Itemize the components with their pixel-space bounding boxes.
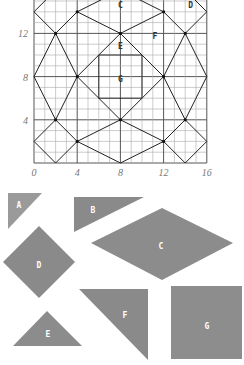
y-tick-label: 12 bbox=[18, 28, 28, 39]
piece-shape bbox=[8, 193, 42, 229]
x-tick-label: 4 bbox=[75, 167, 80, 178]
piece-a: A bbox=[8, 193, 42, 229]
piece-d: D bbox=[3, 226, 75, 298]
vertex-dot bbox=[184, 32, 187, 35]
piece-f: F bbox=[79, 289, 148, 360]
piece-label: A bbox=[17, 201, 22, 210]
vertex-dot bbox=[76, 10, 79, 13]
x-tick-label: 16 bbox=[202, 167, 212, 178]
vertex-dot bbox=[76, 75, 79, 78]
region-label-d: D bbox=[188, 1, 193, 10]
tangram-diagram: CDFEG 04812164812 ABCDEFG bbox=[0, 0, 244, 365]
piece-label: G bbox=[205, 322, 210, 331]
piece-e: E bbox=[13, 311, 82, 346]
vertex-dot bbox=[162, 140, 165, 143]
region-label-g: G bbox=[118, 75, 123, 84]
x-tick-label: 12 bbox=[159, 167, 169, 178]
piece-label: C bbox=[159, 242, 164, 251]
piece-label: B bbox=[91, 206, 96, 215]
piece-label: F bbox=[123, 311, 128, 320]
x-tick-label: 8 bbox=[118, 167, 123, 178]
vertex-dot bbox=[184, 118, 187, 121]
piece-c: C bbox=[91, 208, 233, 280]
vertex-dot bbox=[162, 75, 165, 78]
vertex-dot bbox=[119, 118, 122, 121]
piece-label: D bbox=[37, 261, 42, 270]
vertex-dot bbox=[119, 32, 122, 35]
vertex-dot bbox=[54, 118, 57, 121]
pieces: ABCDEFG bbox=[3, 193, 242, 360]
vertex-dot bbox=[54, 32, 57, 35]
region-label-f: F bbox=[153, 32, 158, 41]
x-tick-label: 0 bbox=[32, 167, 37, 178]
piece-shape bbox=[79, 289, 148, 360]
piece-shape bbox=[13, 311, 82, 346]
y-tick-label: 8 bbox=[23, 72, 28, 83]
region-label-c: C bbox=[118, 1, 123, 10]
vertex-dot bbox=[76, 140, 79, 143]
y-tick-label: 4 bbox=[23, 115, 28, 126]
piece-g: G bbox=[171, 286, 242, 359]
region-label-e: E bbox=[118, 42, 123, 51]
vertex-dot bbox=[162, 10, 165, 13]
piece-label: E bbox=[46, 330, 51, 339]
